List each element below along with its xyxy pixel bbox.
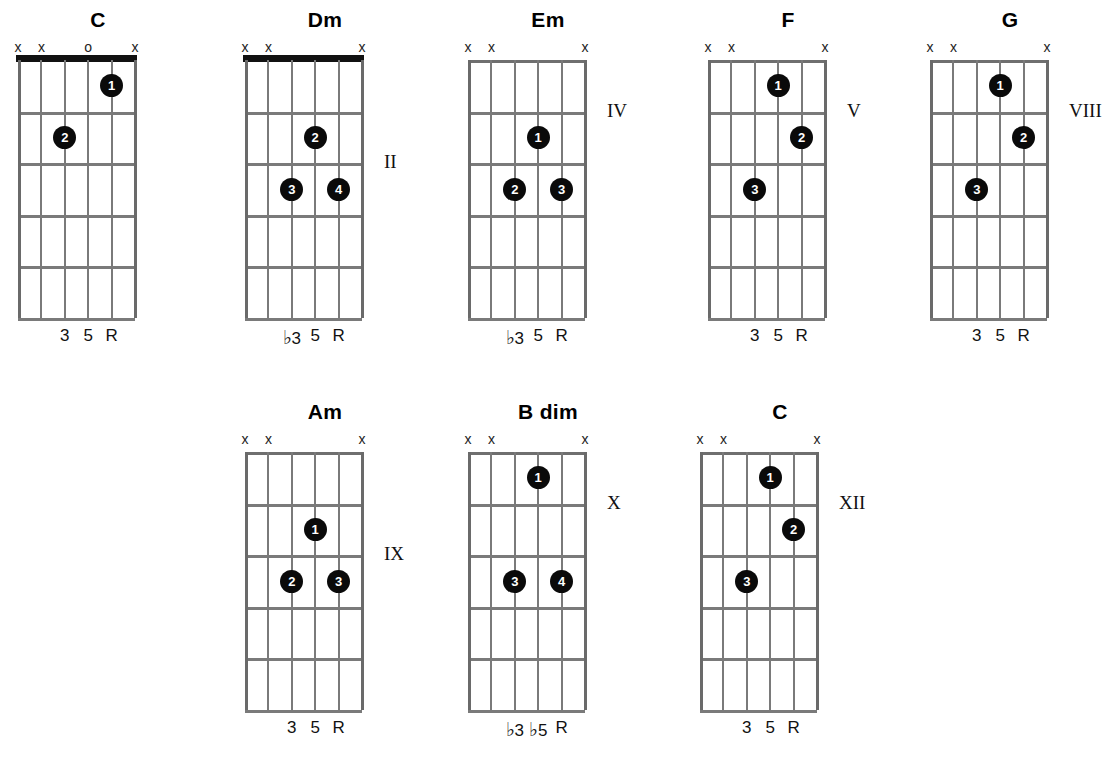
muted-string-marker: x: [1039, 39, 1055, 55]
chord-name: C: [700, 400, 860, 424]
fret-line: [708, 318, 825, 321]
interval-degree: 5: [773, 326, 782, 345]
interval-label: R: [787, 326, 817, 346]
muted-string-marker: x: [10, 39, 26, 55]
nut-bar: [243, 55, 364, 62]
fret-line: [18, 215, 135, 218]
chord-name: C: [18, 8, 178, 32]
muted-string-marker: x: [945, 39, 961, 55]
fret-position-label: XII: [839, 492, 865, 514]
interval-degree: R: [1017, 326, 1029, 345]
muted-string-marker: x: [127, 39, 143, 55]
finger-dot: 2: [304, 126, 327, 149]
interval-degree: 3: [750, 326, 759, 345]
interval-degree: R: [555, 718, 567, 737]
fret-line: [468, 266, 585, 269]
string-line: [111, 60, 113, 318]
finger-dot: 1: [759, 466, 782, 489]
fret-line: [18, 266, 135, 269]
string-marker-row: xxox: [18, 39, 178, 55]
muted-string-marker: x: [354, 431, 370, 447]
string-line: [490, 60, 492, 318]
muted-string-marker: x: [577, 39, 593, 55]
string-line: [952, 60, 954, 318]
flat-sign-icon: ♭: [283, 327, 292, 348]
interval-label-row: ♭35R: [245, 326, 405, 348]
string-line: [361, 452, 364, 710]
string-line: [930, 60, 933, 318]
fret-line: [245, 452, 362, 455]
fret-position-label: II: [384, 151, 397, 173]
interval-label: R: [1009, 326, 1039, 346]
interval-degree: 5: [765, 718, 774, 737]
fret-line: [18, 112, 135, 115]
fret-line: [245, 504, 362, 507]
interval-degree: 5: [83, 326, 92, 345]
interval-degree: 5: [995, 326, 1004, 345]
interval-label-row: 35R: [245, 718, 405, 740]
fret-line: [245, 555, 362, 558]
fret-line: [930, 215, 1047, 218]
finger-dot: 3: [280, 178, 303, 201]
finger-dot: 2: [280, 570, 303, 593]
fret-line: [930, 318, 1047, 321]
fret-line: [245, 112, 362, 115]
string-marker-row: xxx: [468, 431, 628, 447]
finger-dot: 4: [327, 178, 350, 201]
finger-dot: 2: [790, 126, 813, 149]
interval-label: R: [324, 718, 354, 738]
muted-string-marker: x: [922, 39, 938, 55]
string-line: [816, 452, 819, 710]
string-line: [999, 60, 1001, 318]
fret-position-label: VIII: [1069, 100, 1102, 122]
fret-line: [708, 163, 825, 166]
interval-label-row: 35R: [708, 326, 868, 348]
nut-bar: [16, 55, 137, 62]
string-marker-row: xxx: [245, 39, 405, 55]
string-line: [40, 60, 42, 318]
muted-string-marker: x: [237, 39, 253, 55]
interval-degree: 5: [310, 718, 319, 737]
interval-degree: R: [555, 326, 567, 345]
fret-line: [700, 452, 817, 455]
interval-label: R: [324, 326, 354, 346]
fret-line: [468, 215, 585, 218]
string-line: [700, 452, 703, 710]
fret-line: [930, 266, 1047, 269]
string-line: [267, 60, 269, 318]
string-marker-row: xxx: [468, 39, 628, 55]
string-line: [134, 60, 137, 318]
fret-line: [708, 215, 825, 218]
fretboard-grid: 123: [700, 452, 817, 710]
fret-line: [468, 318, 585, 321]
string-marker-row: xxx: [245, 431, 405, 447]
muted-string-marker: x: [577, 431, 593, 447]
muted-string-marker: x: [460, 431, 476, 447]
flat-sign-icon: ♭: [529, 719, 538, 740]
interval-degree: 5: [533, 326, 542, 345]
fret-line: [700, 555, 817, 558]
interval-label-row: 35R: [930, 326, 1090, 348]
fret-line: [18, 318, 135, 321]
interval-label-row: ♭35R: [468, 326, 628, 348]
string-line: [824, 60, 827, 318]
fret-line: [930, 163, 1047, 166]
fretboard-grid: 123: [930, 60, 1047, 318]
string-line: [1023, 60, 1025, 318]
muted-string-marker: x: [817, 39, 833, 55]
interval-degree: 3: [742, 718, 751, 737]
finger-dot: 1: [527, 126, 550, 149]
fret-line: [245, 607, 362, 610]
string-line: [245, 452, 248, 710]
muted-string-marker: x: [237, 431, 253, 447]
muted-string-marker: x: [723, 39, 739, 55]
fret-line: [708, 266, 825, 269]
finger-dot: 2: [782, 518, 805, 541]
string-line: [314, 452, 316, 710]
fretboard-grid: 134: [468, 452, 585, 710]
fret-line: [700, 710, 817, 713]
fret-line: [245, 710, 362, 713]
finger-dot: 1: [100, 74, 123, 97]
muted-string-marker: x: [692, 431, 708, 447]
fret-position-label: V: [847, 100, 861, 122]
